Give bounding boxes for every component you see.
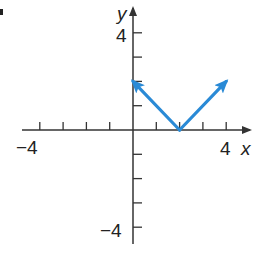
x-tick-label-min: −4: [16, 138, 38, 157]
x-tick-label-max: 4: [220, 139, 231, 158]
graph-canvas: [0, 0, 259, 255]
y-tick-label-max: 4: [116, 26, 127, 45]
axes: [22, 8, 250, 244]
y-tick-label-min: −4: [100, 221, 122, 240]
x-axis-label: x: [241, 139, 251, 158]
y-axis-label: y: [117, 4, 127, 23]
